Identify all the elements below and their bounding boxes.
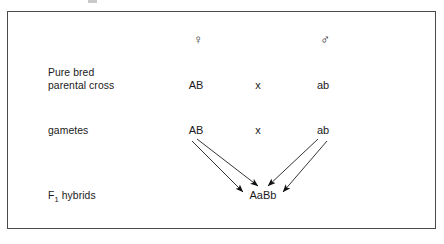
row-label-line-2: parental cross (48, 79, 114, 91)
parental-genotype-male: ab (309, 79, 337, 92)
row-label-f1-hybrids: F1 hybrids (48, 189, 96, 202)
row-label-parental-cross: Pure bred parental cross (48, 66, 114, 92)
parental-cross-operator: x (248, 79, 268, 92)
male-symbol-icon: ♂ (315, 33, 335, 46)
row-label-gametes: gametes (48, 124, 88, 137)
f1-genotype: AaBb (238, 189, 288, 202)
gamete-genotype-female: AB (182, 124, 210, 137)
gamete-cross-operator: x (248, 124, 268, 137)
row-label-line-1: Pure bred (48, 66, 94, 78)
parental-genotype-female: AB (182, 79, 210, 92)
female-symbol-icon: ♀ (188, 33, 208, 46)
f1-label-suffix: hybrids (59, 189, 96, 201)
gamete-genotype-male: ab (309, 124, 337, 137)
clipped-glyph-artifact (88, 0, 97, 3)
diagram-canvas: ♀ ♂ Pure bred parental cross AB x ab gam… (0, 0, 444, 244)
